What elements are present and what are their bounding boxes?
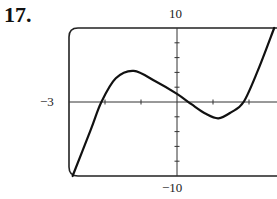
graph-window [0,0,277,199]
